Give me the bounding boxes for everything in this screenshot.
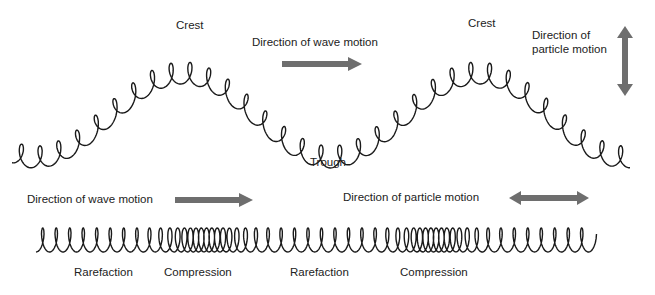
long-particle-direction-label: Direction of particle motion — [343, 190, 479, 204]
trough-label: Trough — [310, 155, 346, 169]
rarefaction-label-1: Rarefaction — [74, 265, 133, 279]
particle-direction-line1: Direction of — [532, 28, 607, 42]
long-wave-direction-label: Direction of wave motion — [27, 192, 153, 206]
particle-direction-label: Direction of particle motion — [532, 28, 607, 56]
compression-label-1: Compression — [164, 265, 232, 279]
rarefaction-label-2: Rarefaction — [290, 265, 349, 279]
compression-label-2: Compression — [400, 265, 468, 279]
right-arrow-icon — [282, 57, 364, 71]
up-down-arrow-icon — [617, 26, 633, 96]
crest-label-left: Crest — [176, 18, 203, 32]
particle-direction-line2: particle motion — [532, 42, 607, 56]
left-right-arrow-icon — [509, 191, 589, 205]
long-right-arrow-icon — [175, 193, 255, 207]
wave-direction-label: Direction of wave motion — [252, 35, 378, 49]
crest-label-right: Crest — [468, 16, 495, 30]
